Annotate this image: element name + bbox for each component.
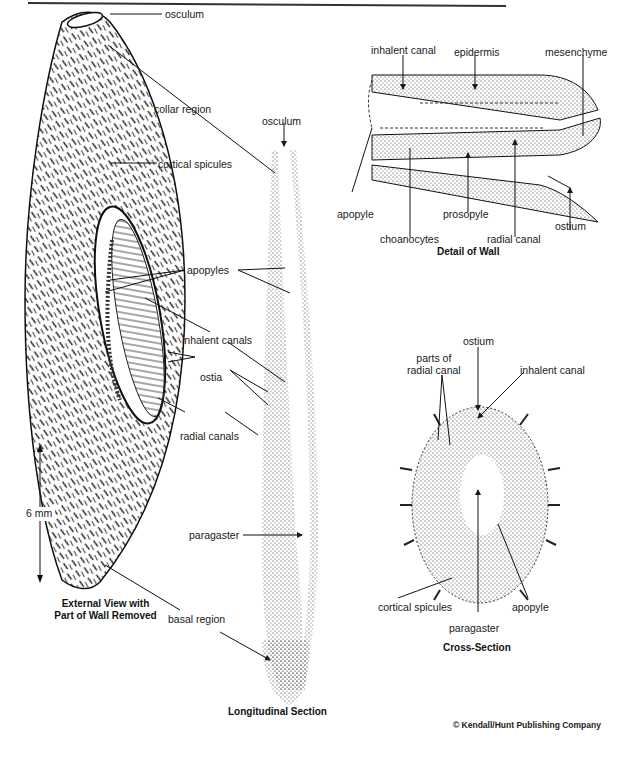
label-ostia: ostia [200,371,222,383]
caption-longitudinal-section: Longitudinal Section [228,706,327,718]
copyright-notice: © Kendall/Hunt Publishing Company [453,720,601,730]
label-radial-canal-wall: radial canal [487,233,541,245]
label-cortical-spicules-cross: cortical spicules [378,601,452,613]
detail-of-wall-figure [369,75,601,222]
label-ostium-wall: ostium [555,220,586,232]
cross-section-figure [400,407,560,603]
label-osculum-external: osculum [165,8,204,20]
label-parts-of-radial-canal: parts of radial canal [407,352,461,376]
label-osculum-longitudinal: osculum [262,115,301,127]
label-mesenchyme: mesenchyme [545,46,607,58]
sponge-illustration [0,0,633,760]
caption-detail-of-wall: Detail of Wall [437,246,499,258]
label-inhalent-canal-wall: inhalent canal [371,44,436,56]
label-epidermis: epidermis [454,46,500,58]
label-inhalent-canals: inhalent canals [182,334,252,346]
label-apopyle-wall: apopyle [337,208,374,220]
label-apopyles: apopyles [187,264,229,276]
caption-external-view: External View with Part of Wall Removed [48,598,163,622]
label-ostium-cross: ostium [463,335,494,347]
label-cortical-spicules: cortical spicules [158,158,232,170]
label-collar-region: collar region [154,103,211,115]
label-basal-region: basal region [168,613,225,625]
label-paragaster: paragaster [189,529,239,541]
label-scale: 6 mm [26,507,52,519]
external-view-figure [25,10,185,589]
label-paragaster-cross: paragaster [449,622,499,634]
label-choanocytes: choanocytes [380,233,439,245]
label-prosopyle: prosopyle [443,208,489,220]
longitudinal-section-figure [262,123,318,705]
label-radial-canals: radial canals [180,430,239,442]
caption-cross-section: Cross-Section [443,642,511,654]
label-apopyle-cross: apopyle [512,601,549,613]
label-inhalent-canal-cross: inhalent canal [520,364,585,376]
